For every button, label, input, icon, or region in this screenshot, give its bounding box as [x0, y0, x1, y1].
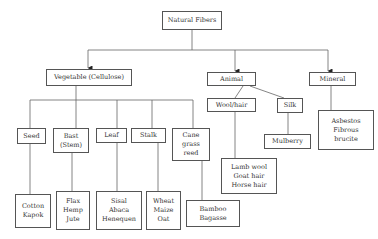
natural-fibers-diagram: Natural Fibers Vegetable (Cellulose) Ani…: [0, 0, 378, 239]
node-mineral: Mineral: [309, 72, 356, 86]
node-lamb-goat-horse: Lamb wool Goat hair Horse hair: [221, 158, 277, 194]
node-wool-hair: Wool/hair: [207, 98, 256, 112]
node-silk: Silk: [277, 98, 303, 113]
node-mulberry: Mulberry: [264, 134, 311, 149]
node-asbestos-fibrous-brucite: Asbestos Fibrous brucite: [318, 110, 374, 150]
node-animal: Animal: [207, 72, 256, 86]
node-stalk: Stalk: [131, 128, 166, 143]
node-cotton-kapok: Cotton Kapok: [15, 194, 51, 228]
node-cane-grass-reed: Cane grass reed: [172, 128, 210, 161]
node-seed: Seed: [17, 128, 46, 144]
node-leaf: Leaf: [96, 128, 127, 143]
node-natural-fibers: Natural Fibers: [162, 11, 222, 30]
node-bamboo-bagasse: Bamboo Bagasse: [186, 200, 240, 227]
node-sisal-abaca-henequen: Sisal Abaca Henequen: [96, 191, 142, 230]
node-bast: Bast (Stem): [53, 128, 89, 153]
node-flax-hemp-jute: Flax Hemp Jute: [56, 191, 90, 230]
node-wheat-maize-oat: Wheat Maize Oat: [146, 191, 181, 230]
node-vegetable: Vegetable (Cellulose): [46, 69, 132, 86]
